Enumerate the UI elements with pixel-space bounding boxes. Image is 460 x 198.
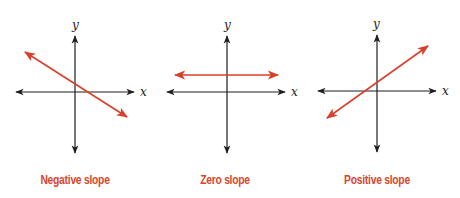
y-axis-label: y: [223, 18, 231, 32]
y-axis-label: y: [372, 17, 380, 31]
caption-positive-slope: Positive slope: [317, 173, 437, 187]
y-axis-label: y: [71, 18, 79, 32]
negative-slope-line: [25, 52, 127, 117]
panel-zero-slope: x y: [167, 18, 298, 153]
slope-diagram: x y x y x y: [0, 0, 460, 198]
x-axis-label: x: [140, 85, 147, 99]
caption-negative-slope: Negative slope: [15, 173, 135, 187]
panel-positive-slope: x y: [318, 17, 449, 152]
panel-negative-slope: x y: [16, 18, 147, 153]
x-axis-label: x: [291, 85, 298, 99]
caption-zero-slope: Zero slope: [165, 173, 285, 187]
x-axis-label: x: [442, 84, 449, 98]
